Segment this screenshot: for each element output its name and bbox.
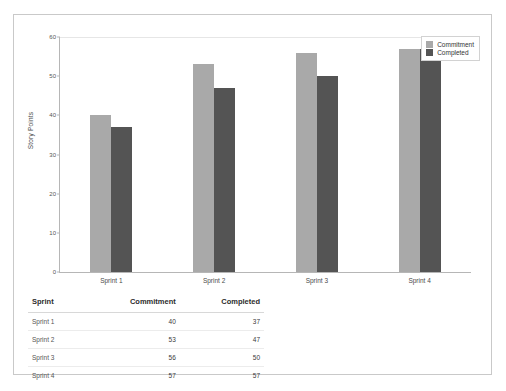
cell-commitment: 56 — [83, 349, 180, 367]
x-axis-tick-label: Sprint 4 — [368, 277, 471, 284]
sprint-bar-chart: Story Points 0102030405060 Sprint 1Sprin… — [14, 15, 491, 290]
cell-completed: 50 — [180, 349, 264, 367]
y-axis-tick-label: 60 — [49, 34, 56, 40]
cell-commitment: 57 — [83, 367, 180, 385]
table-row: Sprint 14037 — [28, 313, 264, 331]
table-body: Sprint 14037Sprint 25347Sprint 35650Spri… — [28, 313, 264, 385]
bar-completed[interactable] — [420, 49, 441, 272]
bar-group: Sprint 1 — [60, 37, 163, 272]
bar-completed[interactable] — [214, 88, 235, 272]
legend-label: Completed — [437, 49, 468, 56]
y-axis-tick-label: 20 — [49, 191, 56, 197]
column-header-commitment: Commitment — [83, 292, 180, 313]
cell-completed: 47 — [180, 331, 264, 349]
x-axis-tick-label: Sprint 1 — [60, 277, 163, 284]
table-row: Sprint 25347 — [28, 331, 264, 349]
bar-group: Sprint 4 — [368, 37, 471, 272]
cell-completed: 57 — [180, 367, 264, 385]
data-table: Sprint Commitment Completed Sprint 14037… — [28, 292, 264, 384]
cell-sprint: Sprint 3 — [28, 349, 83, 367]
column-header-completed: Completed — [180, 292, 264, 313]
plot-area: 0102030405060 Sprint 1Sprint 2Sprint 3Sp… — [59, 37, 471, 273]
bar-group: Sprint 3 — [266, 37, 369, 272]
legend-item[interactable]: Completed — [426, 49, 474, 56]
cell-sprint: Sprint 4 — [28, 367, 83, 385]
table-header-row: Sprint Commitment Completed — [28, 292, 264, 313]
x-axis-tick-label: Sprint 3 — [266, 277, 369, 284]
bar-group: Sprint 2 — [163, 37, 266, 272]
bar-commitment[interactable] — [296, 53, 317, 272]
chart-card: Story Points 0102030405060 Sprint 1Sprin… — [13, 14, 492, 375]
y-axis-tick-label: 10 — [49, 230, 56, 236]
bar-commitment[interactable] — [90, 115, 111, 272]
y-axis-tick-label: 30 — [49, 152, 56, 158]
cell-commitment: 53 — [83, 331, 180, 349]
bar-completed[interactable] — [317, 76, 338, 272]
y-axis-tick-label: 0 — [53, 269, 56, 275]
table-row: Sprint 45757 — [28, 367, 264, 385]
cell-commitment: 40 — [83, 313, 180, 331]
bar-commitment[interactable] — [193, 64, 214, 272]
x-axis-tick-label: Sprint 2 — [163, 277, 266, 284]
legend-label: Commitment — [437, 41, 474, 48]
table-row: Sprint 35650 — [28, 349, 264, 367]
cell-sprint: Sprint 1 — [28, 313, 83, 331]
y-axis-tick-label: 50 — [49, 73, 56, 79]
sprint-data-table: Sprint Commitment Completed Sprint 14037… — [14, 292, 491, 384]
legend-swatch-icon — [426, 49, 433, 56]
bar-groups: Sprint 1Sprint 2Sprint 3Sprint 4 — [60, 37, 471, 272]
column-header-sprint: Sprint — [28, 292, 83, 313]
legend-item[interactable]: Commitment — [426, 41, 474, 48]
cell-completed: 37 — [180, 313, 264, 331]
table-header: Sprint Commitment Completed — [28, 292, 264, 313]
chart-legend: CommitmentCompleted — [421, 36, 480, 61]
y-axis-title: Story Points — [27, 96, 34, 166]
bar-commitment[interactable] — [399, 49, 420, 272]
cell-sprint: Sprint 2 — [28, 331, 83, 349]
legend-swatch-icon — [426, 41, 433, 48]
y-axis-tick-label: 40 — [49, 112, 56, 118]
bar-completed[interactable] — [111, 127, 132, 272]
